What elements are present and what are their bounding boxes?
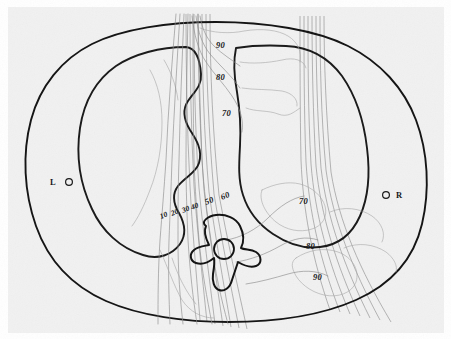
right-marker-label: R	[396, 190, 403, 200]
isodose-label-80-right: 80	[306, 241, 315, 251]
isodose-label-90-right: 90	[313, 272, 322, 282]
isodose-label-70-top: 70	[222, 108, 231, 118]
isodose-figure: L R 90 80 70 60 50 40 30 20 10 70 80 90	[0, 0, 451, 339]
isodose-label-80-top: 80	[216, 72, 225, 82]
isodose-canvas: L R 90 80 70 60 50 40 30 20 10 70 80 90	[0, 0, 451, 339]
isodose-label-70-right: 70	[299, 196, 308, 206]
left-marker-label: L	[50, 177, 57, 187]
isodose-label-90-top: 90	[216, 40, 225, 50]
